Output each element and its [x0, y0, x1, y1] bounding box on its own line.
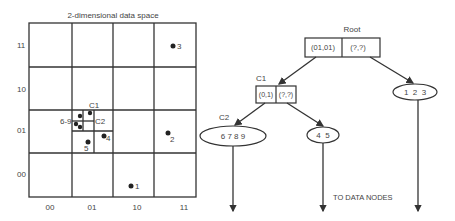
to-data-nodes-label: TO DATA NODES [333, 193, 393, 202]
root-right-entry: (?,?) [350, 43, 366, 52]
data-space-grid [29, 23, 196, 197]
leaf-45-content: 4 5 [316, 131, 330, 140]
point-label: 5 [84, 144, 89, 153]
c2-label: C2 [95, 117, 106, 126]
point-label: 4 [106, 134, 111, 143]
c1-node-label: C1 [256, 74, 267, 83]
y-label: 11 [17, 41, 26, 50]
x-label: 00 [46, 203, 55, 212]
root-label: Root [344, 25, 362, 34]
grid-title: 2-dimensional data space [67, 11, 159, 20]
data-points [74, 44, 176, 189]
x-label: 11 [180, 203, 189, 212]
y-label: 10 [17, 85, 26, 94]
y-label: 00 [17, 170, 26, 179]
x-axis-labels: 00 01 10 11 [46, 203, 189, 212]
y-label: 01 [17, 126, 26, 135]
c1-label: C1 [89, 101, 100, 110]
c1-left-entry: (0,1) [259, 91, 273, 99]
cluster-label: 6-9 [60, 117, 72, 126]
point-label: 2 [170, 135, 175, 144]
c1-right-entry: (?,?) [279, 91, 293, 99]
x-label: 10 [133, 203, 142, 212]
leaf-123-content: 1 2 3 [404, 88, 427, 97]
x-label: 01 [88, 203, 97, 212]
c2-leaf-content: 6 7 8 9 [221, 132, 246, 141]
root-left-entry: (01,01) [311, 43, 335, 52]
c2-node-label: C2 [219, 113, 230, 122]
point-label: 3 [177, 42, 182, 51]
diagram-canvas: 2-dimensional data space 11 10 01 00 00 … [0, 0, 455, 221]
y-axis-labels: 11 10 01 00 [17, 41, 26, 179]
point-label: 1 [135, 182, 140, 191]
